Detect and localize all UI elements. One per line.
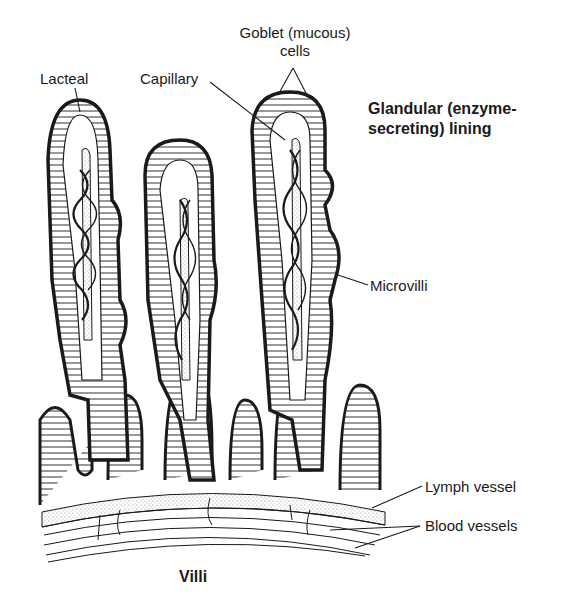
lymph-vessel-label: Lymph vessel [425, 478, 516, 496]
diagram-title: Villi [179, 567, 207, 587]
lacteal-label: Lacteal [40, 70, 88, 88]
blood-leader-b [355, 526, 420, 548]
submucosa-base [42, 494, 385, 563]
goblet-label-line2: cells [222, 42, 368, 60]
microvilli-leader [338, 275, 368, 285]
glandular-label-line1: Glandular (enzyme- [368, 99, 516, 119]
villus-left [48, 100, 128, 460]
villus-right [252, 92, 339, 470]
goblet-label-line1: Goblet (mucous) [222, 24, 368, 42]
glandular-lining-label: Glandular (enzyme- secreting) lining [368, 99, 516, 139]
goblet-cells-label: Goblet (mucous) cells [222, 24, 368, 60]
capillary-label: Capillary [140, 70, 198, 88]
villus-middle [145, 140, 216, 480]
blood-vessels-label: Blood vessels [425, 517, 518, 535]
villi-diagram: Lacteal Capillary Goblet (mucous) cells … [0, 0, 581, 616]
glandular-label-line2: secreting) lining [368, 119, 516, 139]
microvilli-label: Microvilli [370, 277, 428, 295]
